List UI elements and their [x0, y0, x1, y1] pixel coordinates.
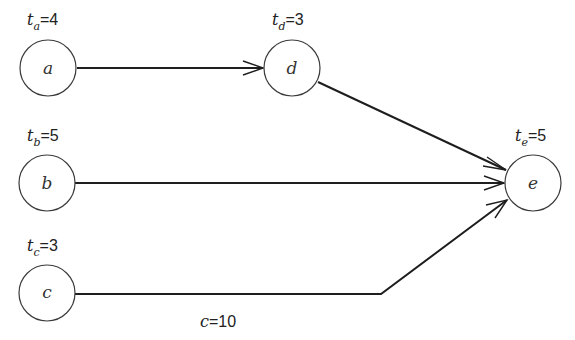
- precedence-graph: a d b c e ta=4 td=3 tb=5 tc=3 t: [0, 0, 575, 340]
- svg-text:tb=5: tb=5: [27, 126, 59, 149]
- node-a: a: [20, 40, 76, 96]
- svg-text:ta=4: ta=4: [27, 10, 58, 33]
- svg-text:td=3: td=3: [272, 10, 304, 33]
- svg-text:te=5: te=5: [515, 126, 546, 149]
- arrowhead-icon: [483, 157, 506, 170]
- node-c: c: [19, 265, 75, 321]
- time-label-b: tb=5: [27, 126, 59, 149]
- time-label-e: te=5: [515, 126, 546, 149]
- node-b: b: [19, 155, 75, 211]
- constraint-label: c=10: [200, 312, 236, 331]
- edge-d-to-e: [318, 82, 506, 170]
- node-label: b: [42, 173, 53, 193]
- node-e: e: [505, 155, 561, 211]
- edge-c-to-e: [75, 200, 507, 294]
- time-label-a: ta=4: [27, 10, 58, 33]
- edge-a-to-d: [77, 61, 263, 75]
- svg-text:c=10: c=10: [200, 312, 236, 331]
- node-d: d: [264, 40, 320, 96]
- node-label: c: [42, 282, 52, 302]
- node-label: d: [287, 58, 298, 78]
- time-label-d: td=3: [272, 10, 304, 33]
- node-label: e: [528, 173, 538, 193]
- time-label-c: tc=3: [27, 236, 58, 259]
- node-label: a: [43, 58, 53, 78]
- svg-text:tc=3: tc=3: [27, 236, 58, 259]
- edge-b-to-e: [75, 176, 504, 190]
